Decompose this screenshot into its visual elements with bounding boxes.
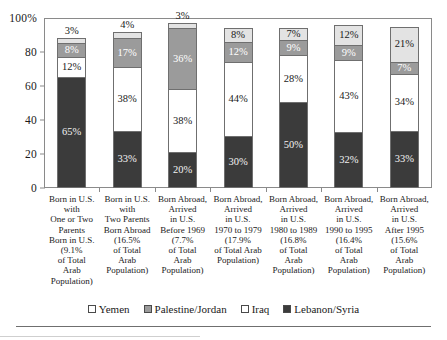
stacked-bar[interactable]: 33%38%17%	[113, 32, 142, 188]
bar-segment[interactable]: 38%	[169, 90, 196, 154]
category-label-line: with	[99, 204, 154, 214]
bar-segment[interactable]: 21%	[391, 28, 418, 63]
bar-segment[interactable]: 32%	[335, 133, 362, 187]
stacked-bar[interactable]: 33%34%7%21%	[390, 27, 419, 189]
bar-column[interactable]: 50%28%9%7%	[279, 18, 308, 188]
bar-column[interactable]: 32%43%9%12%	[334, 18, 363, 188]
legend-swatch-icon	[144, 305, 152, 313]
legend-item[interactable]: Palestine/Jordan	[144, 303, 227, 315]
bar-segment[interactable]: 38%	[114, 68, 141, 132]
x-axis-category-label: Born in U.S.withTwo ParentsBorn Abroad(1…	[99, 194, 154, 276]
x-axis-tick-mark	[155, 188, 156, 192]
bar-segment-value-label: 34%	[395, 97, 414, 108]
bar-segment[interactable]: 33%	[391, 132, 418, 187]
y-axis-tick-label: 80	[25, 46, 37, 58]
bar-segment[interactable]: 50%	[280, 103, 307, 187]
bar-segment[interactable]	[114, 33, 141, 40]
bar-segment-value-label: 50%	[284, 140, 303, 151]
stacked-bar[interactable]: 65%12%8%	[57, 38, 86, 188]
bar-segment[interactable]	[58, 39, 85, 44]
y-axis-tick-label: 0	[31, 182, 37, 194]
stacked-bar[interactable]: 32%43%9%12%	[334, 25, 363, 188]
chart-legend: YemenPalestine/JordanIraqLebanon/Syria	[0, 300, 447, 318]
bar-segment-value-label: 12%	[62, 62, 81, 73]
category-label-line: Arrived	[210, 204, 265, 214]
bar-segment[interactable]: 7%	[280, 29, 307, 41]
category-label-line: (9.1%	[44, 245, 99, 255]
category-label-line: (17.9%	[210, 235, 265, 245]
bar-segment[interactable]: 43%	[335, 61, 362, 133]
bar-segment-value-label: 65%	[62, 127, 81, 138]
category-label-line: Population)	[155, 265, 210, 275]
chart-figure: 100%806040200 65%12%8%3%33%38%17%4%20%38…	[0, 0, 447, 340]
category-label-line: Population)	[99, 265, 154, 275]
bar-segment-value-label: 28%	[284, 74, 303, 85]
bar-segment[interactable]: 9%	[335, 46, 362, 61]
category-label-line: Parents	[44, 225, 99, 235]
bar-segment-value-label: 21%	[395, 39, 414, 50]
category-label-line: Population)	[210, 255, 265, 265]
x-axis-category-label: Born Abroad,Arrivedin U.S.1990 to 1995(1…	[321, 194, 376, 276]
bar-segment[interactable]: 36%	[169, 29, 196, 89]
category-label-line: Arab	[377, 255, 432, 265]
legend-label: Iraq	[252, 303, 270, 315]
bar-segment-value-label: 44%	[228, 94, 247, 105]
bar-segment[interactable]: 12%	[335, 26, 362, 46]
bar-column[interactable]: 33%38%17%4%	[113, 18, 142, 188]
x-axis-category-label: Born Abroad,Arrivedin U.S.1980 to 1989(1…	[266, 194, 321, 276]
bar-segment[interactable]: 8%	[58, 44, 85, 57]
category-label-line: Before 1969	[155, 225, 210, 235]
bar-segment[interactable]	[169, 24, 196, 29]
bar-segment[interactable]: 65%	[58, 78, 85, 187]
category-label-line: in U.S.	[210, 214, 265, 224]
x-axis-category-label: Born Abroad,Arrivedin U.S.1970 to 1979(1…	[210, 194, 265, 265]
category-label-line: of Total	[321, 245, 376, 255]
bar-segment[interactable]: 17%	[114, 39, 141, 68]
bar-group: 65%12%8%3%33%38%17%4%20%38%36%3%30%44%12…	[44, 18, 432, 188]
legend-item[interactable]: Yemen	[88, 303, 130, 315]
category-label-line: of Total	[266, 245, 321, 255]
bar-segment[interactable]: 28%	[280, 56, 307, 103]
bar-segment[interactable]: 20%	[169, 153, 196, 187]
bar-segment-value-label: 8%	[231, 30, 245, 41]
category-label-line: Arab	[321, 255, 376, 265]
stacked-bar[interactable]: 50%28%9%7%	[279, 28, 308, 188]
legend-item[interactable]: Lebanon/Syria	[283, 303, 359, 315]
x-axis-category-label: Born in U.S.withOne or TwoParentsBorn in…	[44, 194, 99, 286]
x-axis-tick-mark	[210, 188, 211, 192]
bar-segment[interactable]: 12%	[225, 43, 252, 63]
stacked-bar[interactable]: 20%38%36%	[168, 23, 197, 188]
category-label-line: Born Abroad,	[377, 194, 432, 204]
bar-column[interactable]: 65%12%8%3%	[57, 18, 86, 188]
bar-column[interactable]: 33%34%7%21%	[390, 18, 419, 188]
category-label-line: Arab	[44, 265, 99, 275]
bar-segment[interactable]: 12%	[58, 58, 85, 78]
bar-segment[interactable]: 44%	[225, 63, 252, 137]
legend-item[interactable]: Iraq	[241, 303, 270, 315]
bar-segment-value-label: 38%	[173, 116, 192, 127]
stacked-bar[interactable]: 30%44%12%8%	[224, 28, 253, 188]
legend-swatch-icon	[241, 305, 249, 313]
legend-label: Palestine/Jordan	[155, 303, 227, 315]
x-axis-tick-mark	[377, 188, 378, 192]
bar-segment-value-label: 12%	[228, 47, 247, 58]
category-label-line: Arrived	[155, 204, 210, 214]
bar-segment-value-label: 30%	[228, 157, 247, 168]
y-axis-tick-label: 20	[25, 148, 37, 160]
bar-segment[interactable]: 7%	[391, 63, 418, 75]
category-label-line: Arrived	[321, 204, 376, 214]
bar-segment[interactable]: 34%	[391, 75, 418, 132]
bar-segment[interactable]: 30%	[225, 137, 252, 187]
bar-column[interactable]: 30%44%12%8%	[224, 18, 253, 188]
bar-segment[interactable]: 33%	[114, 132, 141, 187]
category-label-line: of Total	[99, 245, 154, 255]
category-label-line: Arab	[99, 255, 154, 265]
x-axis-category-label: Born Abroad,Arrivedin U.S.Before 1969(7.…	[155, 194, 210, 276]
category-label-line: Population)	[44, 276, 99, 286]
bar-segment-value-label: 33%	[118, 154, 137, 165]
bar-column[interactable]: 20%38%36%3%	[168, 18, 197, 188]
category-label-line: Born Abroad	[99, 225, 154, 235]
legend-label: Yemen	[99, 303, 130, 315]
bar-segment[interactable]: 9%	[280, 41, 307, 56]
bar-segment[interactable]: 8%	[225, 29, 252, 42]
